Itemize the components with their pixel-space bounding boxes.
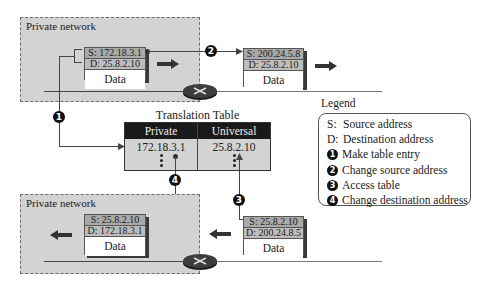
network-line-top-right	[214, 91, 382, 92]
legend-item: S:Source address	[327, 117, 470, 132]
packet-destination: D: 25.8.2.10	[85, 59, 145, 70]
left-arrow-icon	[50, 230, 72, 240]
step-1-badge: 1	[53, 111, 65, 123]
packet-data: Data	[244, 239, 303, 258]
private-network-label: Private network	[26, 197, 96, 209]
router-top	[183, 84, 217, 98]
step-4-badge: 4	[169, 174, 181, 186]
legend-title: Legend	[321, 97, 355, 109]
table-header: Private Universal	[125, 123, 270, 139]
packet-outgoing-private: S: 172.18.3.1 D: 25.8.2.10 Data	[84, 47, 146, 80]
column-header-private: Private	[125, 123, 198, 139]
step-3-badge: 3	[233, 194, 245, 206]
step-1-icon: 1	[327, 149, 338, 160]
legend-item: 3Access table	[327, 178, 470, 193]
cell-private: 172.18.3.1	[125, 139, 198, 170]
step-4-icon: 4	[327, 195, 338, 206]
cell-universal: 25.8.2.10	[198, 139, 270, 170]
router-cross-icon	[183, 84, 217, 98]
bracket-top	[74, 49, 82, 50]
packet-incoming-universal: S: 25.8.2.10 D: 200.24.8.5 Data	[243, 216, 304, 255]
legend-text: Source address	[343, 117, 412, 132]
router-bottom	[183, 254, 217, 268]
legend-text: Access table	[342, 178, 400, 193]
network-line-bottom-right	[214, 261, 382, 262]
legend-text: Change destination address	[342, 193, 468, 208]
legend-text: Change source address	[342, 163, 447, 178]
step3-line	[239, 158, 240, 220]
packet-data: Data	[85, 237, 145, 256]
network-line-top-left	[44, 91, 184, 92]
legend-item: D:Destination address	[327, 132, 470, 147]
legend: S:Source address D:Destination address 1…	[318, 113, 471, 206]
step-3-icon: 3	[327, 180, 338, 191]
arrowhead-icon	[236, 48, 243, 55]
legend-item: 1Make table entry	[327, 147, 470, 162]
packet-outgoing-universal: S: 200.24.5.8 D: 25.8.2.10 Data	[243, 48, 304, 87]
step1-line-h	[59, 146, 121, 147]
legend-item: 2Change source address	[327, 163, 470, 178]
bracket-stem	[59, 56, 74, 57]
legend-item: 4Change destination address	[327, 193, 470, 208]
legend-key: D:	[327, 132, 343, 147]
ellipsis-icon	[160, 154, 163, 169]
private-address: 172.18.3.1	[137, 141, 186, 153]
network-line-bottom-left	[44, 261, 184, 262]
legend-key: S:	[327, 117, 343, 132]
bracket-bottom	[74, 62, 82, 63]
table-row: 172.18.3.1 25.8.2.10	[125, 139, 270, 170]
step-2-icon: 2	[327, 165, 338, 176]
column-header-universal: Universal	[198, 123, 270, 139]
universal-address: 25.8.2.10	[212, 141, 255, 153]
right-arrow-icon	[157, 59, 179, 69]
packet-data: Data	[244, 71, 303, 90]
router-cross-icon	[183, 254, 217, 268]
left-arrow-icon	[209, 229, 231, 239]
packet-incoming-private: S: 25.8.2.10 D: 172.18.3.1 Data	[84, 214, 146, 255]
packet-destination: D: 172.18.3.1	[85, 226, 145, 237]
private-network-label: Private network	[26, 20, 96, 32]
legend-text: Destination address	[343, 132, 433, 147]
step-2-badge: 2	[205, 45, 217, 57]
translation-table-title: Translation Table	[124, 108, 271, 123]
packet-destination: D: 200.24.8.5	[244, 228, 303, 239]
step2-line	[148, 51, 241, 52]
step1-line	[59, 56, 60, 147]
packet-destination: D: 25.8.2.10	[244, 60, 303, 71]
legend-text: Make table entry	[342, 147, 420, 162]
right-arrow-icon	[315, 61, 337, 71]
translation-table: Private Universal 172.18.3.1 25.8.2.10	[124, 122, 271, 171]
packet-data: Data	[85, 70, 145, 89]
bracket	[74, 49, 75, 63]
